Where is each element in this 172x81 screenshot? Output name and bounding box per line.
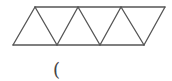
zigzag-segment bbox=[35, 7, 57, 45]
zigzag-segment bbox=[144, 7, 165, 45]
answer-bracket: ( bbox=[53, 61, 60, 79]
zigzag-segment bbox=[121, 7, 144, 45]
zigzag-segment bbox=[57, 7, 78, 45]
parallelogram-triangles-figure bbox=[0, 0, 172, 81]
zigzag-segment bbox=[13, 7, 35, 45]
zigzag-segment bbox=[100, 7, 121, 45]
zigzag-segment bbox=[78, 7, 100, 45]
